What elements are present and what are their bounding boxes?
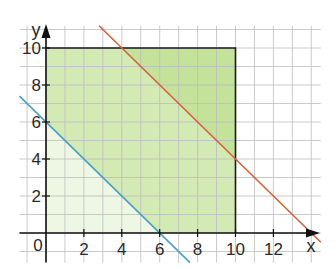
y-tick-label: 2 [32,187,41,206]
y-axis-arrow-icon [42,24,51,38]
x-tick-label: 6 [155,240,164,259]
x-tick-label: 10 [226,240,245,259]
y-axis-label: y [32,20,41,40]
origin-label: 0 [33,236,42,255]
y-tick-label: 10 [22,39,41,58]
chart-canvas: 246810122468100xy [0,0,336,269]
y-tick-label: 4 [32,150,41,169]
x-tick-label: 2 [79,240,88,259]
x-tick-label: 8 [193,240,202,259]
x-tick-label: 4 [117,240,126,259]
x-tick-label: 12 [264,240,283,259]
y-tick-label: 6 [32,113,41,132]
y-tick-label: 8 [32,76,41,95]
coordinate-chart: 246810122468100xy [0,0,336,269]
x-axis-label: x [307,236,316,256]
